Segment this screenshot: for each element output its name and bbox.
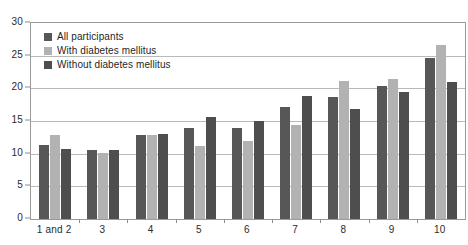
- bar: [425, 58, 435, 219]
- bar: [388, 79, 398, 219]
- legend-swatch-icon: [44, 33, 52, 41]
- bar: [158, 134, 168, 219]
- x-axis-tick-label: 9: [389, 224, 395, 235]
- bar-chart: 051015202530 All participants With diabe…: [0, 0, 468, 245]
- chart-legend: All participants With diabetes mellitus …: [44, 30, 171, 72]
- x-axis-group-separator: [127, 219, 128, 223]
- x-axis-tick-label: 4: [148, 224, 154, 235]
- bar: [206, 117, 216, 219]
- x-axis-tick-label: 10: [434, 224, 446, 235]
- legend-swatch-icon: [44, 61, 52, 69]
- bar: [61, 149, 71, 219]
- legend-item: With diabetes mellitus: [44, 44, 171, 57]
- y-axis-tick-label: 30: [11, 17, 23, 27]
- bar: [350, 109, 360, 219]
- bar: [436, 45, 446, 219]
- x-axis-group-separator: [369, 219, 370, 223]
- x-axis-group-separator: [224, 219, 225, 223]
- legend-item-label: With diabetes mellitus: [57, 46, 156, 56]
- x-axis: 1 and 2345678910: [30, 224, 464, 242]
- bar-group: [417, 23, 465, 219]
- x-axis-tick-label: 6: [244, 224, 250, 235]
- x-axis-tick-label: 3: [99, 224, 105, 235]
- x-axis-group-separator: [272, 219, 273, 223]
- y-axis-tick-label: 20: [11, 82, 23, 92]
- bar: [302, 96, 312, 219]
- bar: [195, 146, 205, 219]
- bar: [147, 135, 157, 219]
- x-axis-group-separator: [79, 219, 80, 223]
- bar: [243, 141, 253, 219]
- bar: [377, 86, 387, 219]
- bar: [399, 92, 409, 219]
- x-axis-tick-label: 1 and 2: [37, 224, 72, 235]
- bar: [87, 150, 97, 219]
- legend-item-label: Without diabetes mellitus: [57, 60, 171, 70]
- bar: [254, 121, 264, 219]
- legend-item-label: All participants: [57, 32, 124, 42]
- legend-item: All participants: [44, 30, 171, 43]
- x-axis-group-separator: [417, 219, 418, 223]
- bar-group: [369, 23, 417, 219]
- bar: [328, 97, 338, 219]
- bar: [447, 82, 457, 219]
- legend-item: Without diabetes mellitus: [44, 58, 171, 71]
- x-axis-group-separator: [176, 219, 177, 223]
- x-axis-group-separator: [320, 219, 321, 223]
- bar-group: [176, 23, 224, 219]
- bar: [39, 145, 49, 219]
- bar-group: [272, 23, 320, 219]
- legend-swatch-icon: [44, 47, 52, 55]
- bar: [136, 135, 146, 219]
- plot-area: All participants With diabetes mellitus …: [30, 22, 466, 220]
- x-axis-tick-label: 5: [196, 224, 202, 235]
- y-axis-tick-label: 0: [17, 213, 23, 223]
- bar: [98, 153, 108, 219]
- bar: [184, 128, 194, 219]
- y-axis-tick-label: 10: [11, 148, 23, 158]
- bar: [50, 135, 60, 219]
- bar-group: [224, 23, 272, 219]
- bar: [339, 81, 349, 220]
- y-axis-tick-label: 25: [11, 50, 23, 60]
- bar: [232, 128, 242, 219]
- y-axis: 051015202530: [0, 0, 30, 245]
- bar-group: [320, 23, 368, 219]
- x-axis-tick-label: 8: [341, 224, 347, 235]
- x-axis-tick-label: 7: [292, 224, 298, 235]
- bar: [109, 150, 119, 219]
- y-axis-tick-label: 5: [17, 180, 23, 190]
- bar: [291, 125, 301, 219]
- bar: [280, 107, 290, 219]
- y-axis-tick-label: 15: [11, 115, 23, 125]
